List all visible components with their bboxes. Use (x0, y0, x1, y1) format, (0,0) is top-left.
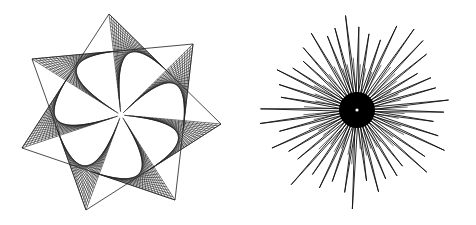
starburst-drawing (240, 0, 476, 225)
string-art-star-drawing (0, 0, 240, 225)
string-art-star-figure (0, 0, 240, 225)
starburst-figure (240, 0, 476, 225)
